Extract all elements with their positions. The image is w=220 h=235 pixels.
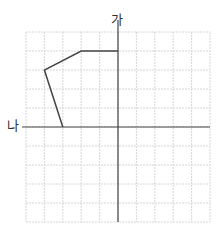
symmetry-grid-figure xyxy=(0,0,220,235)
